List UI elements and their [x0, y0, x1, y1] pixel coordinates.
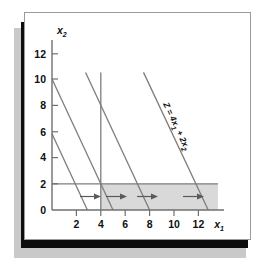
- x-tick-label-6: 6: [122, 218, 128, 230]
- x-tick-label-4: 4: [98, 218, 104, 230]
- objective-label-plus: + 2x: [173, 126, 191, 149]
- y-tick-label-8: 8: [40, 99, 46, 111]
- y-tick-label-12: 12: [34, 48, 46, 60]
- y-axis-title-sub: 2: [62, 31, 67, 38]
- x-tick-label-10: 10: [168, 218, 180, 230]
- x-axis-title: x1: [213, 218, 224, 232]
- x-tick-label-8: 8: [147, 218, 153, 230]
- y-tick-label-4: 4: [40, 151, 46, 163]
- figure-root: 12 10 8 6 4 2 0 2 4 6 8 10 12 x2 x1 Z = …: [0, 0, 270, 271]
- x-tick-label-12: 12: [193, 218, 205, 230]
- x-tick-label-2: 2: [73, 218, 79, 230]
- y-axis-ticks: [52, 54, 58, 184]
- x-axis-title-sub: 1: [220, 225, 224, 232]
- objective-function-label: Z = 4x1 + 2x2: [159, 100, 192, 153]
- x-axis-ticks: [76, 210, 198, 216]
- lp-graph-plot: 12 10 8 6 4 2 0 2 4 6 8 10 12 x2 x1 Z = …: [24, 12, 251, 240]
- y-tick-label-0: 0: [40, 204, 46, 216]
- y-axis-title: x2: [56, 24, 67, 38]
- iso-profit-line-1: [52, 134, 87, 210]
- objective-label-main: Z = 4x: [161, 100, 181, 129]
- direction-arrow-1: [80, 193, 101, 199]
- iso-profit-line-2: [52, 79, 113, 210]
- y-tick-label-2: 2: [40, 178, 46, 190]
- y-tick-label-10: 10: [34, 73, 46, 85]
- y-tick-label-6: 6: [40, 126, 46, 138]
